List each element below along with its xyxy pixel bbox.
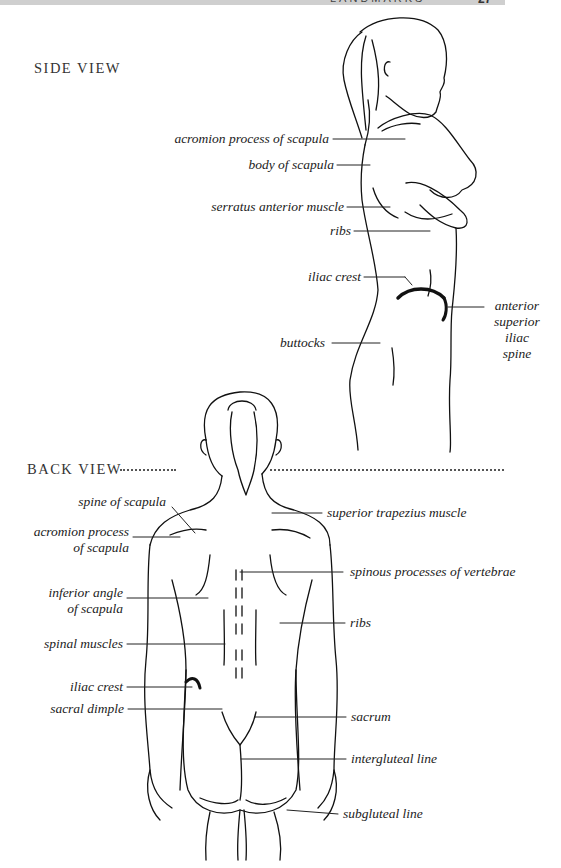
label-asis-line-1: anterior [487, 298, 547, 314]
label-acromion-back-line-1: acromion process [34, 524, 129, 540]
label-subgluteal-line: subgluteal line [343, 806, 423, 822]
label-asis-line-4: spine [487, 346, 547, 362]
label-sacral-dimple: sacral dimple [50, 701, 124, 717]
label-ribs-back: ribs [350, 615, 371, 631]
side-view-figure [343, 18, 476, 452]
label-asis: anterior superior iliac spine [487, 298, 547, 362]
label-serratus-anterior: serratus anterior muscle [211, 199, 344, 215]
label-buttocks: buttocks [280, 335, 325, 351]
label-body-of-scapula: body of scapula [249, 157, 335, 173]
label-acromion-back: acromion process of scapula [34, 524, 129, 556]
side-view-title: SIDE VIEW [34, 60, 121, 77]
label-acromion-back-line-2: of scapula [34, 540, 129, 556]
label-asis-line-3: iliac [487, 330, 547, 346]
label-ribs-side: ribs [330, 223, 351, 239]
label-spinous-processes: spinous processes of vertebrae [350, 564, 516, 580]
back-view-figure [145, 392, 338, 860]
label-spine-of-scapula: spine of scapula [78, 494, 166, 510]
label-spinal-muscles: spinal muscles [44, 636, 123, 652]
leader-lines [127, 139, 484, 814]
label-asis-line-2: superior [487, 314, 547, 330]
label-superior-trapezius: superior trapezius muscle [327, 505, 467, 521]
back-view-title: BACK VIEW [27, 461, 122, 478]
back-view-dotted-rule-right [270, 469, 504, 471]
label-acromion-process: acromion process of scapula [174, 131, 329, 147]
label-sacrum: sacrum [351, 709, 391, 725]
label-inferior-angle-line-2: of scapula [48, 601, 123, 617]
label-inferior-angle-line-1: inferior angle [48, 585, 123, 601]
label-iliac-crest-back: iliac crest [70, 679, 123, 695]
label-inferior-angle: inferior angle of scapula [48, 585, 123, 617]
label-intergluteal-line: intergluteal line [351, 751, 437, 767]
label-iliac-crest-side: iliac crest [308, 269, 361, 285]
back-view-dotted-rule-left [120, 469, 176, 471]
